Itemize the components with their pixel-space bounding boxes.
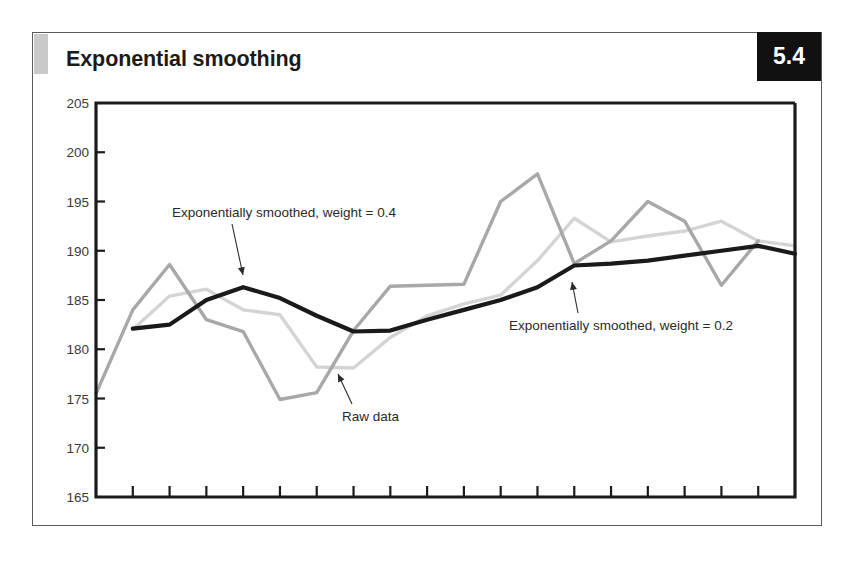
figure-title: Exponential smoothing — [66, 47, 302, 72]
figure-number-badge: 5.4 — [757, 32, 821, 81]
title-accent-tab — [34, 34, 48, 74]
figure-card: Exponential smoothing 5.4 — [32, 32, 822, 526]
